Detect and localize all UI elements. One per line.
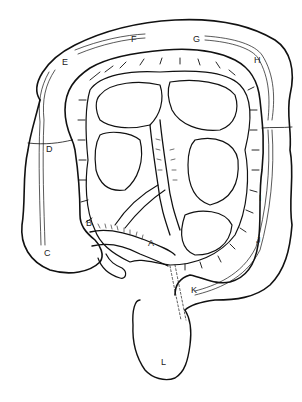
superior-mesenteric-artery <box>150 120 180 235</box>
taenia-line-right <box>195 130 273 295</box>
colon-diagram: A B C D E F G H I J K L <box>0 0 302 402</box>
ascending-colon-outline <box>22 100 102 273</box>
label-d: D <box>46 145 53 154</box>
flexure-divider-right <box>262 127 292 128</box>
taenia-line-left <box>39 70 55 245</box>
label-j: J <box>256 236 261 245</box>
mesentery-loop-main <box>86 71 250 265</box>
label-h: H <box>254 56 261 65</box>
sigmoid-vessel-dashed <box>170 265 186 320</box>
label-g: G <box>193 35 200 44</box>
label-c: C <box>44 249 51 258</box>
mesentery-loop-mid-left <box>95 132 141 190</box>
label-b: B <box>86 219 92 228</box>
ileocolic-branch <box>115 185 165 228</box>
label-e: E <box>62 58 68 67</box>
label-k: K <box>191 286 197 295</box>
rectum-outline <box>133 300 191 380</box>
mesentery-loop-upper-right <box>168 81 237 131</box>
mesentery-loop-lower-right <box>182 211 232 255</box>
label-i: I <box>259 194 262 203</box>
mesentery-loop-mid-right <box>188 138 238 205</box>
label-l: L <box>161 358 166 367</box>
mesentery-loop-upper-left <box>96 82 162 127</box>
taenia-line-upper-inner <box>78 38 269 120</box>
label-f: F <box>131 35 137 44</box>
taenia-line-upper <box>75 34 274 120</box>
label-a: A <box>148 239 154 248</box>
